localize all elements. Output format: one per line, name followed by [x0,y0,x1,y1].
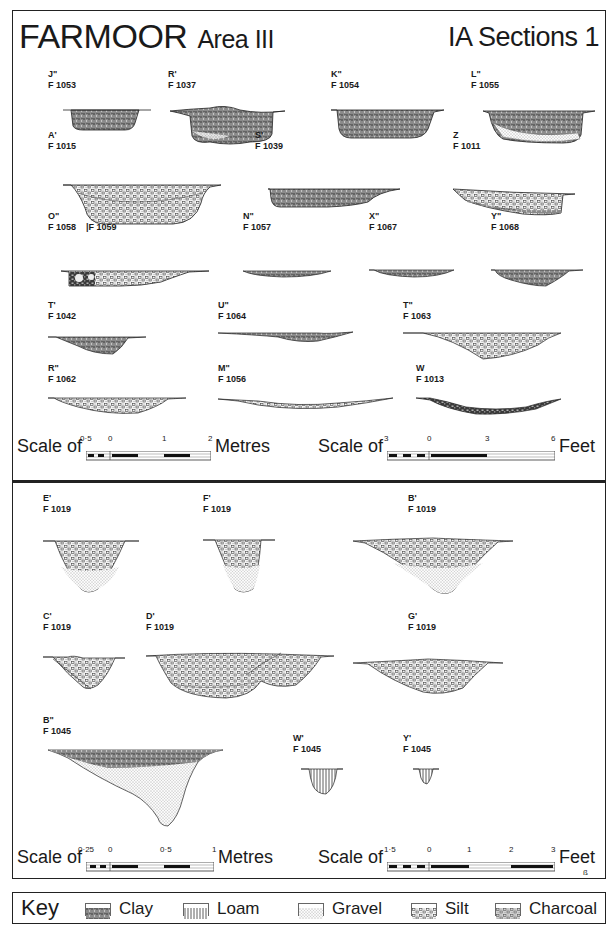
section-drawing-d [146,653,336,708]
key-item-silt: Silt [411,899,469,919]
title-box: FARMOORArea III IA Sections 1 [12,10,606,62]
bottom-sections-panel: E'F 1019 F'F 1019 B'F 1019 C'F 1019 D'F … [12,481,606,879]
section-label: A'F 1015 [48,130,76,152]
section-label: U"F 1064 [218,300,246,322]
key-item-clay: Clay [85,899,153,919]
section-drawing-y2 [413,768,443,793]
section-label: E'F 1019 [43,493,71,515]
section-label: J"F 1053 [48,69,76,91]
section-drawing-m [218,397,398,417]
section-drawing-c [43,655,128,695]
key-item-loam: Loam [183,899,260,919]
section-label: WF 1013 [416,363,444,385]
loam-swatch-icon [183,903,209,916]
metres-scale-bottom: Scale of 0·25 0 0·5 1 Metres [17,847,273,868]
draughtsman-signature: ß [583,868,588,877]
charcoal-swatch-icon [495,903,521,916]
site-name: FARMOOR [19,17,187,55]
section-drawing-o [61,270,211,295]
section-label: Y"F 1068 [491,211,519,233]
section-label: B'F 1019 [408,493,436,515]
section-drawing-r2 [48,397,188,422]
key-item-charcoal: Charcoal [495,899,597,919]
key-title: Key [21,895,59,921]
section-label: W'F 1045 [293,733,321,755]
section-label: D'F 1019 [146,611,174,633]
scale-bar: 1·5 0 1 2 3 [387,856,555,866]
scale-bar: 0·25 0 0·5 1 [86,856,214,866]
section-drawing-k [331,109,446,144]
section-drawing-b2 [48,748,228,833]
section-drawing-t2 [403,331,563,366]
section-drawing-j [63,108,153,138]
key-item-gravel: Gravel [298,899,382,919]
section-drawing-x [369,268,459,283]
top-sections-panel: J"F 1053 R'F 1037 K"F 1054 L"F 1055 A'F … [12,61,606,481]
feet-scale-bottom: Scale of 1·5 0 1 2 3 Feet [318,847,595,868]
section-label: T'F 1042 [48,300,76,322]
section-drawing-w2 [301,768,346,803]
section-label: B"F 1045 [43,715,71,737]
section-label: X"F 1067 [369,211,397,233]
section-label: C'F 1019 [43,611,71,633]
section-drawing-l [483,109,598,149]
section-drawing-w [416,397,566,422]
section-drawing-y [491,268,586,293]
section-label: R'F 1037 [168,69,196,91]
section-label: G'F 1019 [408,611,436,633]
section-drawing-t [48,336,148,361]
area-name: Area III [197,25,274,53]
section-label: Y'F 1045 [403,733,431,755]
metres-scale-top: Scale of 0·5 0 1 2 Metres [17,436,270,457]
scale-bar: 3 0 3 6 [387,445,555,455]
section-label: K"F 1054 [331,69,359,91]
section-label: O"F 1058|F 1059 [48,211,117,233]
key-legend: Key Clay Loam Gravel Silt Charcoal [12,892,606,924]
page-title: FARMOORArea III [19,17,274,56]
section-drawing-g [353,658,508,703]
scale-bar: 0·5 0 1 2 [86,445,211,455]
section-label: R"F 1062 [48,363,76,385]
section-drawing-e [43,539,143,599]
section-label: T"F 1063 [403,300,431,322]
section-label: F'F 1019 [203,493,231,515]
section-label: ZF 1011 [453,130,481,152]
feet-scale-top: Scale of 3 0 3 6 Feet [318,436,595,457]
silt-swatch-icon [411,903,437,916]
section-drawing-f [203,539,278,599]
section-drawing-n [243,269,333,284]
section-label: L"F 1055 [471,69,499,91]
gravel-swatch-icon [298,903,324,916]
section-drawing-b [353,539,523,601]
section-label: S'F 1039 [255,130,283,152]
clay-swatch-icon [85,903,111,916]
sheet-title: IA Sections 1 [448,22,599,53]
section-label: N"F 1057 [243,211,271,233]
section-drawing-u [218,331,358,351]
section-label: M"F 1056 [218,363,246,385]
